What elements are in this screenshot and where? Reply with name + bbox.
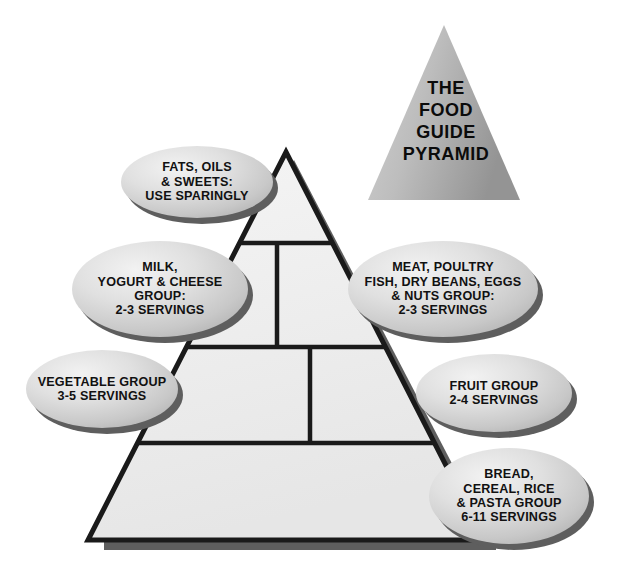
callout-ellipse-fats[interactable] xyxy=(121,146,278,224)
callout-ellipse-milk[interactable] xyxy=(72,241,253,343)
callout-ellipse-vegetable[interactable] xyxy=(26,350,183,434)
figure-title: THE FOOD GUIDE PYRAMID xyxy=(388,64,504,180)
figure-title-line-2: FOOD xyxy=(419,100,473,122)
figure-title-line-1: THE xyxy=(427,78,465,100)
pyramid-diagram xyxy=(0,0,619,574)
figure-title-line-4: PYRAMID xyxy=(403,144,490,166)
food-guide-pyramid-figure: THE FOOD GUIDE PYRAMID FATS, OILS & SWEE… xyxy=(0,0,619,574)
callout-ellipse-fruit[interactable] xyxy=(416,354,577,438)
figure-title-line-3: GUIDE xyxy=(416,122,476,144)
